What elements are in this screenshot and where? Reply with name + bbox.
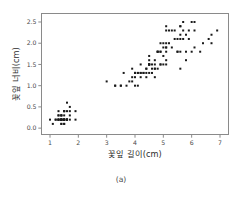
x-tick-label: 4 (133, 139, 137, 146)
data-point (188, 38, 190, 40)
data-point (194, 46, 196, 48)
axes-layer: 12345670.00.51.01.52.02.5 (27, 14, 229, 147)
data-point (154, 68, 156, 70)
data-point (162, 55, 164, 57)
data-point (154, 59, 156, 61)
data-point (179, 68, 181, 70)
data-point (216, 29, 218, 31)
data-point (63, 114, 65, 116)
scatter-plot: 12345670.00.51.01.52.02.5 꽃잎 길이(cm) 꽃잎 너… (0, 0, 243, 197)
data-point (194, 29, 196, 31)
data-point (165, 25, 167, 27)
data-point (151, 72, 153, 74)
data-point (185, 51, 187, 53)
data-point (160, 51, 162, 53)
data-point (131, 68, 133, 70)
data-point (191, 51, 193, 53)
data-point (177, 51, 179, 53)
data-point (52, 123, 54, 125)
data-point (60, 114, 62, 116)
data-point (194, 21, 196, 23)
data-point (160, 42, 162, 44)
y-axis-label: 꽃잎 너비(cm) (11, 47, 21, 100)
data-point (128, 80, 130, 82)
data-point (151, 63, 153, 65)
data-point (179, 51, 181, 53)
data-point (58, 119, 60, 121)
data-point (63, 110, 65, 112)
x-tick-label: 2 (76, 139, 80, 146)
data-point (63, 123, 65, 125)
figure-panel: 12345670.00.51.01.52.02.5 꽃잎 길이(cm) 꽃잎 너… (0, 0, 243, 197)
data-point (66, 102, 68, 104)
data-point (160, 63, 162, 65)
data-point (211, 34, 213, 36)
data-point (134, 76, 136, 78)
data-point (199, 51, 201, 53)
x-tick-label: 5 (161, 139, 165, 146)
data-point (137, 85, 139, 87)
data-point (58, 114, 60, 116)
data-point (185, 34, 187, 36)
data-point (75, 110, 77, 112)
data-point (49, 119, 51, 121)
data-point (165, 51, 167, 53)
data-point (58, 110, 60, 112)
figure-caption: (a) (116, 175, 127, 184)
data-point (69, 114, 71, 116)
y-tick-label: 2.0 (27, 39, 37, 46)
data-point (185, 59, 187, 61)
data-point (182, 21, 184, 23)
data-point (55, 119, 57, 121)
data-point (140, 76, 142, 78)
data-point (165, 46, 167, 48)
data-point (162, 42, 164, 44)
data-point (69, 106, 71, 108)
y-tick-label: 1.0 (27, 82, 37, 89)
data-point (63, 119, 65, 121)
data-point (179, 34, 181, 36)
data-point (131, 80, 133, 82)
data-point (60, 119, 62, 121)
data-point (148, 59, 150, 61)
data-point (154, 63, 156, 65)
data-point (211, 42, 213, 44)
y-tick-label: 1.5 (27, 61, 37, 68)
data-point (165, 29, 167, 31)
y-tick-label: 0.0 (27, 124, 37, 131)
data-point (145, 68, 147, 70)
data-point (191, 21, 193, 23)
data-point (208, 38, 210, 40)
x-axis-label: 꽃잎 길이(cm) (108, 149, 161, 159)
data-point (137, 72, 139, 74)
data-point (140, 63, 142, 65)
data-point (171, 46, 173, 48)
data-point (179, 25, 181, 27)
data-point (171, 29, 173, 31)
data-point (151, 68, 153, 70)
data-point (123, 72, 125, 74)
data-point (66, 119, 68, 121)
data-point (174, 38, 176, 40)
x-tick-label: 7 (218, 139, 222, 146)
data-point (106, 80, 108, 82)
x-tick-label: 6 (190, 139, 194, 146)
data-point (148, 55, 150, 57)
data-point (75, 119, 77, 121)
data-point (66, 110, 68, 112)
data-point (131, 76, 133, 78)
data-point (157, 51, 159, 53)
data-point (177, 38, 179, 40)
data-point (168, 42, 170, 44)
data-point (145, 72, 147, 74)
data-point (126, 85, 128, 87)
data-point (202, 42, 204, 44)
data-point (168, 29, 170, 31)
x-tick-label: 1 (48, 139, 52, 146)
data-point (148, 72, 150, 74)
data-point (188, 29, 190, 31)
data-point (134, 85, 136, 87)
data-point (69, 110, 71, 112)
data-point (165, 42, 167, 44)
data-point (120, 85, 122, 87)
